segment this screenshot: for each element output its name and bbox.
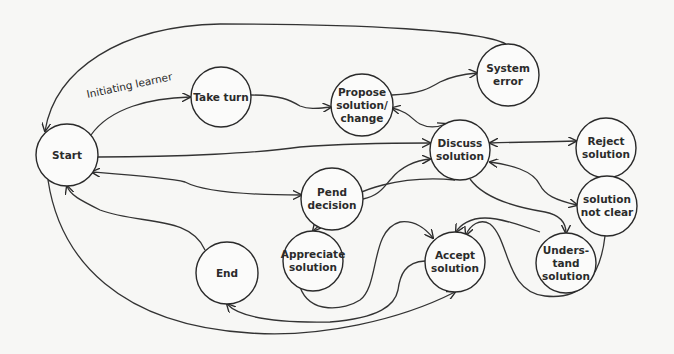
node-pend <box>301 168 363 230</box>
node-understand <box>536 233 596 293</box>
edge-start-to-discuss <box>98 143 430 157</box>
node-propose <box>331 74 393 136</box>
edge-take-turn-to-propose <box>251 95 331 108</box>
edge-propose-to-discuss <box>392 108 446 127</box>
state-diagram <box>0 0 674 354</box>
edge-propose-to-system-error <box>392 73 477 95</box>
edge-not-clear-to-discuss <box>490 162 577 205</box>
edge-start-to-take-turn <box>91 97 190 135</box>
node-reject <box>576 118 636 178</box>
edge-discuss-to-reject <box>490 141 576 143</box>
diagram-canvas: StartTake turnPropose solution/ changeSy… <box>0 0 674 354</box>
node-start <box>36 124 98 186</box>
node-end <box>196 242 258 304</box>
node-accept <box>425 232 485 292</box>
node-system-error <box>477 44 539 106</box>
node-take-turn <box>191 67 251 127</box>
edge-end-to-start <box>67 186 205 250</box>
edge-start-to-pend <box>92 172 301 195</box>
node-appreciate <box>283 231 343 291</box>
node-discuss <box>430 120 490 180</box>
node-not-clear <box>577 176 637 236</box>
